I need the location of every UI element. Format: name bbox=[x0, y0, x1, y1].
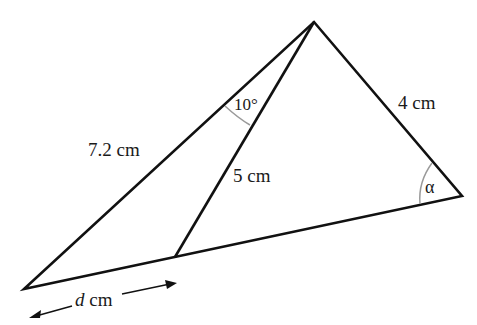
apex-angle-label: 10° bbox=[234, 95, 258, 114]
right-side-label: 4 cm bbox=[398, 92, 436, 113]
cevian-line bbox=[175, 22, 314, 257]
alpha-label: α bbox=[425, 177, 435, 197]
cevian-label: 5 cm bbox=[233, 165, 271, 186]
arrow-left-shaft bbox=[36, 306, 72, 316]
left-side-label: 7.2 cm bbox=[88, 139, 140, 160]
d-variable: d bbox=[75, 289, 85, 310]
triangle-diagram: 7.2 cm 4 cm 5 cm 10° α d cm bbox=[0, 0, 477, 325]
d-unit: cm bbox=[85, 289, 113, 310]
arrow-left-head-icon bbox=[29, 310, 41, 318]
arrow-right-shaft bbox=[122, 284, 170, 294]
arrow-right-head-icon bbox=[165, 280, 177, 289]
base-segment-label: d cm bbox=[75, 289, 113, 310]
